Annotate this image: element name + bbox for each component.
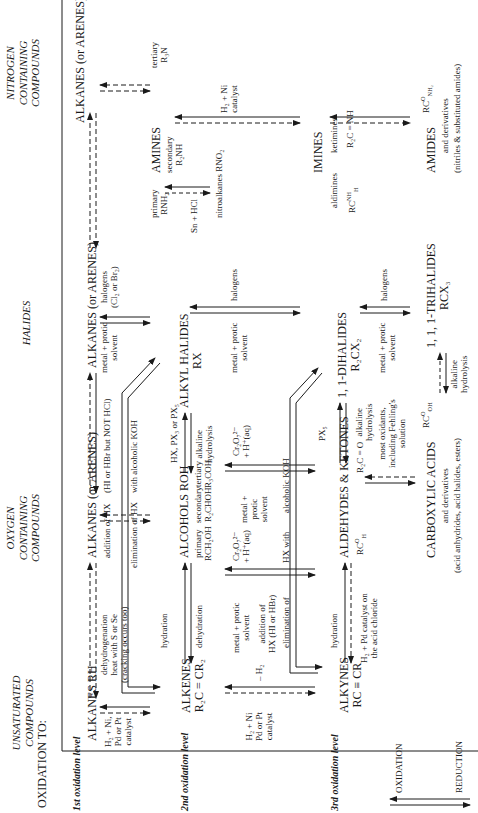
amides-derivatives: and derivatives [441, 98, 451, 153]
reagent-metal-protic-1: metal + protic solvent [100, 322, 120, 373]
compound-dihalides: 1, 1-DIHALIDES R₂CX₂ [336, 312, 361, 398]
reagent-metal-protic-2: metal + protic solvent [230, 322, 250, 373]
reagent-addition-hx: addition of HX [103, 504, 113, 559]
oxidation-to-label: OXIDATION TO: [36, 720, 49, 808]
compound-carboxylic-acids: CARBOXYLIC ACIDS [425, 442, 438, 558]
carboxylic-formula: RCOOH [420, 402, 434, 428]
reagent-metal-protic-3: metal + protic solvent [232, 602, 252, 653]
reagent-cr2o7-1: Cr₂O₇²⁻ + H⁺(aq) [232, 530, 252, 563]
legend-reduction: REDUCTION [455, 741, 465, 793]
amides-formula: RCONH₂ [420, 85, 434, 113]
reagent-cr2o7-2: Cr₂O₇²⁻ + H⁺(aq) [232, 425, 252, 458]
reagent-hydration-1: hydration [160, 614, 170, 649]
reagent-dehydrogenation: dehydrogenation heat with S or Se (crack… [100, 607, 130, 683]
compound-trihalides: 1, 1, 1-TRIHALIDES RCX₃ [425, 243, 450, 348]
amines-tertiary: tertiary R₃N [150, 42, 170, 68]
reagent-alkaline-hydrolysis-2: alkaline hydrolysis [355, 403, 375, 441]
alcohols-primary: primary RCH₂OH [194, 526, 214, 561]
reagent-alkaline-hydrolysis-1: alkaline hydrolysis [195, 425, 215, 463]
amides-examples: (nitriles & substituted amides) [453, 64, 463, 173]
reagent-h2-ni-pd-pt-1: H₂ + Ni, Pd or Pt catalyst [104, 717, 134, 747]
compound-alkanes-halides: ALKANES (or ARENES) [86, 242, 99, 368]
reagent-elimination-hx: elimination of HX [130, 502, 140, 568]
aldimine-formula: RCNHH [346, 187, 360, 213]
level-label-3: 3rd oxidation level [330, 734, 341, 811]
level-label-1: 1st oxidation level [72, 737, 83, 811]
reagent-hx-with: HX with [282, 532, 292, 563]
reagent-minus-h2: – H₂ [255, 665, 265, 681]
reagent-sn-hcl: Sn + HCl [190, 199, 200, 233]
reagent-most-oxidants: most oxidants, including Fehling's solut… [378, 399, 408, 468]
imines-aldimines: aldimines [330, 173, 340, 208]
reagent-alkaline-hydrolysis-3: alkaline hydrolysis [450, 355, 470, 393]
alcohols-tertiary: tertiary R₃COH [194, 460, 214, 488]
reagent-px5: PX₅ [318, 426, 328, 441]
ketimine-formula: R₂C = NH [346, 110, 356, 148]
column-header-oxygen: OXYGEN CONTAINING COMPOUNDS [4, 483, 42, 573]
legend-oxidation: OXIDATION [395, 744, 405, 794]
reagent-halogens-3: halogens [380, 269, 390, 301]
level-label-2: 2nd oxidation level [180, 733, 191, 811]
reaction-map-diagram: OXIDATION TO: UNSATURATED COMPOUNDS OXYG… [0, 0, 478, 813]
reagent-dehydration: dehydration [195, 605, 205, 648]
column-header-unsaturated: UNSATURATED COMPOUNDS [10, 673, 35, 753]
aldehyde-formula: RCOH [354, 534, 368, 555]
reagent-h2-ni-pd-pt-2: H₂ + Ni Pd or Pt catalyst [245, 712, 275, 741]
compound-alkanes-rh: ALKANES RH [86, 665, 99, 741]
alcohols-secondary: secondary R₂CHOH [194, 487, 214, 523]
carboxylic-examples: (acid anhydrides, acid halides, esters) [453, 438, 463, 573]
compound-amides: AMIDES [425, 127, 438, 173]
amines-secondary: secondary R₂NH [165, 137, 185, 173]
reagent-with-alcoholic-koh: with alcoholic KOH [130, 420, 140, 493]
compound-alkyl-halides: ALKYL HALIDES RX [178, 313, 203, 408]
compound-alkenes: ALKENES R₂C = CR₂ [180, 658, 205, 713]
carboxylic-derivatives: and derivatives [441, 468, 451, 523]
reagent-metal-protic-4: metal + protic solvent [378, 322, 398, 373]
reagent-metal-protic-small: metal + protic solvent [240, 496, 270, 523]
compound-imines: IMINES [312, 132, 325, 173]
reagent-halogens-2: halogens [230, 269, 240, 301]
reagent-hx-px3-px5: HX, PX₃ or PX₅ [170, 404, 180, 463]
reagent-h2-ni-catalyst-imine: H₂ + Ni catalyst [220, 85, 240, 113]
reagent-elimination-of: elimination of [282, 597, 292, 648]
reagent-hydration-2: hydration [330, 614, 340, 649]
compound-alkynes: ALKYNES RC ≡ CR [338, 657, 363, 713]
compound-aldehydes-ketones: ALDEHYDES & KETONES [338, 416, 351, 558]
column-header-nitrogen: NITROGEN CONTAINING COMPOUNDS [4, 23, 42, 123]
reagent-hi-hbr-not-hcl: (HI or HBr but NOT HCl) [103, 398, 113, 493]
reagent-addition-hx-2: addition of HX (HI or HBr) [258, 595, 278, 653]
reagent-alcoholic-koh: alcoholic KOH [282, 458, 292, 513]
compound-alcohols: ALCOHOLS ROH [178, 466, 191, 558]
reagent-halogens-cl2-br2: halogens (Cl₂ or Br₂) [100, 266, 120, 308]
compound-amines: AMINES [150, 127, 163, 173]
compound-nitroalkanes: nitroalkanes RNO₂ [215, 150, 225, 218]
column-header-halides: HALIDES [20, 283, 33, 363]
reagent-h2-pd-acid-chloride: H₂ + Pd catalyst on the acid chloride [360, 593, 380, 663]
imines-ketimines: ketimines [330, 118, 340, 153]
compound-alkanes-oxygen: ALKANES (or ARENES) [86, 432, 99, 558]
compound-alkanes-nitrogen: ALKANES (or ARENES) [74, 0, 87, 123]
ketone-formula: R₂C = O [356, 442, 366, 473]
amines-primary: primary RNH₂ [150, 190, 170, 219]
